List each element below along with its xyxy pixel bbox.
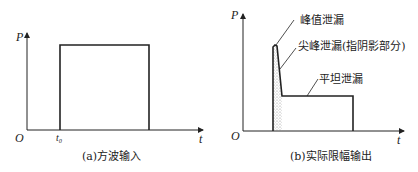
- y-axis-label-b: P: [231, 9, 238, 21]
- x-axis-label-a: t: [199, 133, 202, 145]
- origin-label-b: O: [231, 130, 240, 142]
- annotation-flat-leakage: 平坦泄漏: [319, 74, 363, 85]
- caption-b: (b)实际限幅输出: [290, 147, 372, 163]
- leader-spike: [280, 48, 296, 69]
- output-waveform: [273, 45, 353, 131]
- x-axis-label-b: t: [397, 134, 400, 146]
- leader-peak: [276, 20, 294, 45]
- caption-a: (a)方波输入: [82, 147, 141, 163]
- square-wave: [60, 45, 149, 130]
- square-wave-chart: [27, 33, 203, 130]
- annotation-spike-leakage: 尖峰泄漏(指阴影部分): [298, 41, 406, 52]
- origin-label-a: O: [15, 132, 24, 144]
- annotation-peak-leakage: 峰值泄漏: [300, 15, 344, 26]
- leader-flat: [307, 79, 318, 96]
- t0-label: t₀: [56, 133, 62, 143]
- y-axis-label-a: P: [16, 31, 23, 43]
